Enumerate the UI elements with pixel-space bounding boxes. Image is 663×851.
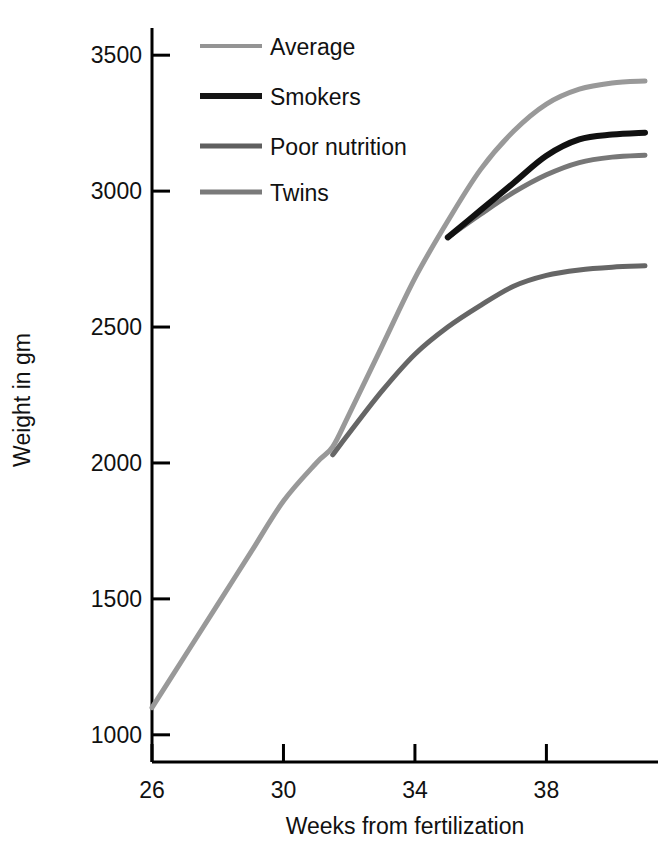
x-axis-title: Weeks from fertilization <box>286 813 525 839</box>
x-tick-label: 26 <box>139 777 165 803</box>
y-tick-label: 2500 <box>91 314 142 340</box>
y-tick-label: 1500 <box>91 586 142 612</box>
legend-label-twins: Twins <box>270 180 329 206</box>
legend-label-smokers: Smokers <box>270 84 361 110</box>
x-tick-label: 30 <box>271 777 297 803</box>
y-tick-label: 1000 <box>91 722 142 748</box>
x-tick-label: 38 <box>534 777 560 803</box>
y-tick-label: 2000 <box>91 450 142 476</box>
y-tick-label: 3000 <box>91 178 142 204</box>
y-axis-title: Weight in gm <box>9 333 35 467</box>
legend-label-average: Average <box>270 34 355 60</box>
x-tick-label: 34 <box>402 777 428 803</box>
y-tick-label: 3500 <box>91 42 142 68</box>
chart-figure: 100015002000250030003500 26303438 Weeks … <box>0 0 663 851</box>
line-chart: 100015002000250030003500 26303438 Weeks … <box>0 0 663 851</box>
legend-label-poor-nutrition: Poor nutrition <box>270 134 407 160</box>
